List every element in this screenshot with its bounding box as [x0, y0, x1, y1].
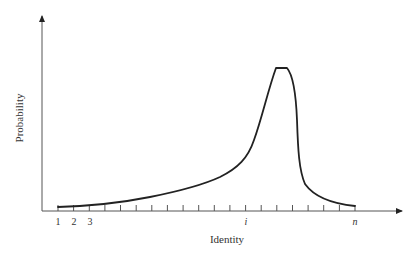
tick-label-i: i — [245, 216, 248, 227]
x-axis-ticks — [58, 205, 355, 211]
probability-curve — [58, 68, 355, 207]
tick-label-1: 1 — [56, 216, 61, 227]
y-axis-title: Probability — [13, 93, 25, 142]
tick-label-3: 3 — [88, 216, 93, 227]
probability-chart: 1 2 3 i n Identity Probability — [0, 0, 415, 253]
tick-label-n: n — [353, 216, 358, 227]
x-axis-title: Identity — [210, 233, 245, 245]
tick-label-2: 2 — [72, 216, 77, 227]
